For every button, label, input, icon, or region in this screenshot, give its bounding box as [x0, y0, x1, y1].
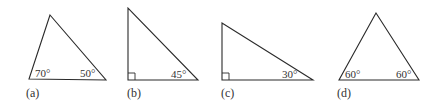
triangles-figure: 70° 50° (a) 45° (b) 30° (c) 60° 60° (d): [0, 0, 444, 106]
triangle-b-caption: (b): [127, 86, 141, 100]
triangle-d-caption: (d): [337, 86, 351, 100]
triangle-b: 45° (b): [127, 8, 198, 100]
triangle-a-angle-bottom-right: 50°: [80, 67, 95, 79]
right-angle-marker-c: [222, 73, 229, 80]
right-angle-marker-b: [128, 73, 135, 80]
triangle-b-angle-bottom-right: 45°: [171, 68, 186, 80]
triangle-c-caption: (c): [221, 86, 234, 100]
triangle-c-angle-bottom-right: 30°: [282, 68, 297, 80]
triangle-a-angle-bottom-left: 70°: [35, 67, 50, 79]
triangle-c: 30° (c): [221, 23, 313, 100]
triangle-a-caption: (a): [26, 86, 39, 100]
triangle-d-angle-bottom-right: 60°: [396, 68, 411, 80]
triangle-d-angle-bottom-left: 60°: [345, 68, 360, 80]
triangle-b-shape: [128, 8, 198, 80]
triangle-d: 60° 60° (d): [337, 13, 419, 100]
triangle-a: 70° 50° (a): [26, 15, 106, 100]
triangle-c-shape: [222, 23, 313, 80]
